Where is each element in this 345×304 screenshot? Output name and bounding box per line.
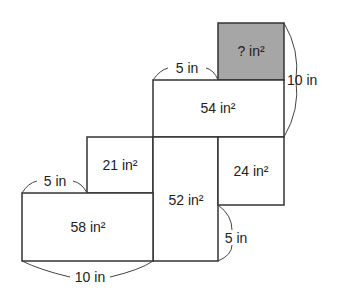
- dim-bottom-width: 10 in: [75, 269, 105, 285]
- prism-net-diagram: ? in² 54 in² 21 in² 52 in² 24 in² 58 in²…: [0, 0, 345, 304]
- label-58: 58 in²: [70, 219, 105, 235]
- brace-top-right: [206, 68, 218, 80]
- brace-left-a: [22, 181, 37, 193]
- dim-left-width: 5 in: [44, 173, 67, 189]
- label-24: 24 in²: [233, 163, 268, 179]
- label-52: 52 in²: [168, 192, 203, 208]
- label-21: 21 in²: [102, 157, 137, 173]
- label-54: 54 in²: [200, 100, 235, 116]
- label-unknown: ? in²: [237, 43, 265, 59]
- dim-right-height: 10 in: [287, 72, 317, 88]
- dim-right-lower: 5 in: [225, 230, 248, 246]
- brace-left-b: [73, 181, 87, 193]
- brace-top-left: [153, 68, 168, 80]
- dim-top-width: 5 in: [176, 60, 199, 76]
